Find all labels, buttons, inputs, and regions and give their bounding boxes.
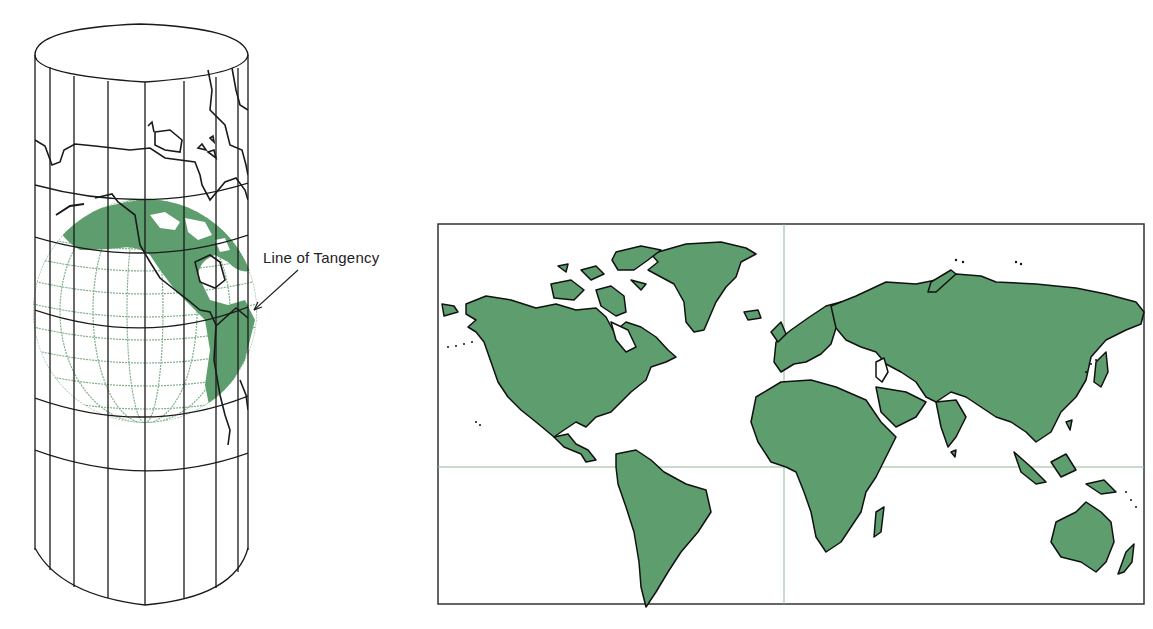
cylinder — [35, 24, 248, 605]
cylinder-illustration — [0, 0, 400, 629]
mercator-world-map — [436, 222, 1148, 608]
tangency-arrow — [254, 270, 298, 310]
cylinder-diagram: Line of Tangency — [0, 0, 400, 629]
line-of-tangency-label: Line of Tangency — [263, 249, 379, 266]
world-map-illustration — [436, 222, 1148, 608]
